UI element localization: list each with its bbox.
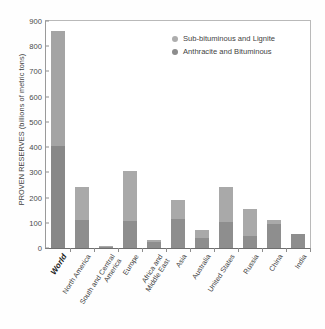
y-axis-tick-mark	[46, 46, 49, 47]
legend-swatch-anthracite-and-bituminous	[172, 49, 178, 55]
x-axis-label-europe: Europe	[121, 253, 141, 277]
bar-segment-anthracite-and-bituminous	[195, 238, 209, 248]
bar-europe	[123, 171, 137, 248]
x-axis-label-russia: Russia	[242, 253, 261, 276]
bar-segment-sub-bituminous-and-lignite	[171, 200, 185, 219]
bar-segment-sub-bituminous-and-lignite	[243, 209, 257, 236]
legend-label: Sub-bituminous and Lignite	[183, 34, 275, 43]
bar-segment-anthracite-and-bituminous	[243, 236, 257, 248]
y-axis-tick-mark	[46, 147, 49, 148]
x-axis-label-africa-and-middle-east: Africa and Middle East	[138, 253, 173, 294]
x-axis-tick-mark	[190, 248, 191, 252]
bar-china	[267, 220, 281, 248]
bar-segment-sub-bituminous-and-lignite	[51, 31, 65, 146]
chart-legend: Sub-bituminous and Lignite Anthracite an…	[172, 34, 275, 60]
bar-australia	[195, 230, 209, 248]
x-axis-label-india: India	[294, 253, 310, 271]
x-axis-label-china: China	[268, 253, 285, 273]
y-axis-tick-label: 200	[29, 193, 46, 202]
y-axis-tick-label: 800	[29, 42, 46, 51]
legend-item: Anthracite and Bituminous	[172, 47, 275, 56]
x-axis-tick-mark	[142, 248, 143, 252]
y-axis-tick-label: 0	[38, 244, 46, 253]
bar-segment-anthracite-and-bituminous	[99, 247, 113, 249]
y-axis-tick-label: 400	[29, 143, 46, 152]
y-axis-tick-mark	[46, 172, 49, 173]
x-axis-tick-mark	[262, 248, 263, 252]
x-axis-tick-mark	[238, 248, 239, 252]
y-axis-tick-label: 700	[29, 67, 46, 76]
y-axis-tick-mark	[46, 21, 49, 22]
bar-segment-anthracite-and-bituminous	[171, 219, 185, 248]
chart-figure: PROVEN RESERVES (billions of metric tons…	[0, 0, 325, 329]
y-axis-tick-mark	[46, 71, 49, 72]
y-axis-title: PROVEN RESERVES (billions of metric tons…	[17, 15, 26, 245]
y-axis-tick-label: 900	[29, 17, 46, 26]
bar-segment-anthracite-and-bituminous	[123, 221, 137, 248]
bar-segment-anthracite-and-bituminous	[147, 242, 161, 248]
y-axis-tick-mark	[46, 121, 49, 122]
y-axis-tick-mark	[46, 248, 49, 249]
bar-segment-anthracite-and-bituminous	[51, 146, 65, 248]
x-axis-tick-mark	[94, 248, 95, 252]
y-axis-tick-mark	[46, 222, 49, 223]
bar-segment-sub-bituminous-and-lignite	[219, 187, 233, 222]
x-axis-tick-mark	[214, 248, 215, 252]
bar-india	[291, 234, 305, 248]
legend-label: Anthracite and Bituminous	[183, 47, 272, 56]
bar-segment-anthracite-and-bituminous	[75, 220, 89, 248]
x-axis-tick-mark	[118, 248, 119, 252]
y-axis-tick-label: 600	[29, 92, 46, 101]
y-axis-tick-label: 100	[29, 218, 46, 227]
bar-segment-anthracite-and-bituminous	[267, 224, 281, 248]
bar-russia	[243, 209, 257, 248]
bar-asia	[171, 200, 185, 248]
x-axis-label-asia: Asia	[174, 253, 189, 269]
x-axis-tick-mark	[70, 248, 71, 252]
bar-segment-anthracite-and-bituminous	[219, 222, 233, 248]
x-axis-label-world: World	[50, 253, 69, 276]
bar-segment-anthracite-and-bituminous	[291, 234, 305, 248]
bar-world	[51, 31, 65, 248]
bar-segment-sub-bituminous-and-lignite	[75, 187, 89, 220]
bar-north-america	[75, 187, 89, 248]
bar-united-states	[219, 187, 233, 248]
bar-segment-sub-bituminous-and-lignite	[123, 171, 137, 221]
x-axis-label-australia: Australia	[191, 253, 213, 281]
x-axis-tick-mark	[286, 248, 287, 252]
legend-swatch-sub-bituminous-and-lignite	[172, 36, 178, 42]
y-axis-tick-label: 500	[29, 117, 46, 126]
y-axis-tick-label: 300	[29, 168, 46, 177]
legend-item: Sub-bituminous and Lignite	[172, 34, 275, 43]
y-axis-tick-mark	[46, 96, 49, 97]
x-axis-tick-mark	[166, 248, 167, 252]
x-axis-tick-mark	[310, 248, 311, 252]
bar-africa-and-middle-east	[147, 240, 161, 248]
y-axis-tick-mark	[46, 197, 49, 198]
bar-segment-sub-bituminous-and-lignite	[195, 230, 209, 239]
bar-south-and-central-america	[99, 245, 113, 248]
